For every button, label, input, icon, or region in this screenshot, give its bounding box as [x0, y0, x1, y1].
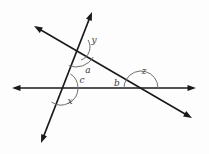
- angle-c-label: c: [79, 76, 84, 85]
- angle-b-label: b: [114, 79, 120, 88]
- angle-x-arc: [51, 88, 78, 105]
- diagonal-line-arrow-end: [183, 111, 192, 118]
- angle-c-arc: [71, 74, 78, 88]
- angle-x-label: x: [67, 97, 72, 106]
- angle-y-label: y: [91, 36, 96, 45]
- angle-z-label: z: [142, 67, 147, 76]
- diagram-canvas: [0, 0, 209, 154]
- steep-line-arrow-start: [86, 12, 92, 21]
- geometry-figure: yacxbz: [0, 0, 209, 154]
- horizontal-line-arrow-end: [188, 85, 197, 91]
- diagonal-line: [38, 29, 187, 116]
- steep-line-arrow-end: [41, 134, 47, 143]
- angle-a-label: a: [85, 66, 90, 75]
- diagonal-line-arrow-start: [34, 26, 43, 33]
- horizontal-line-arrow-start: [12, 85, 21, 91]
- angle-b-arc: [124, 80, 126, 89]
